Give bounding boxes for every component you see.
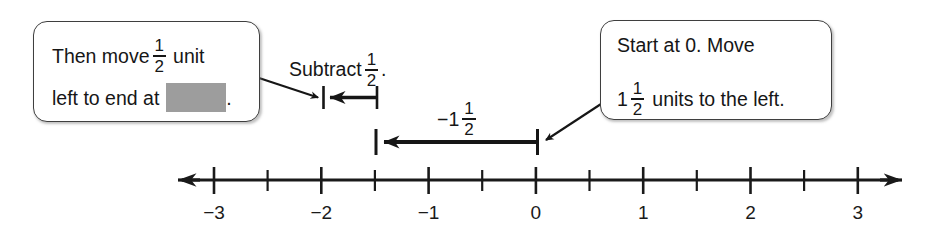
fraction-denominator: 2 [153, 57, 166, 75]
fraction-numerator: 1 [462, 100, 475, 118]
subtract-annotation-period: . [381, 58, 386, 80]
main-jump-label: −112 [437, 101, 479, 139]
right-callout-line1-text: Start at 0. Move [617, 36, 755, 56]
answer-blank[interactable] [166, 83, 226, 112]
fraction-numerator: 1 [365, 51, 378, 69]
number-line-figure: −3 −2 −1 0 1 2 3 Subtract12. −112 Then m… [0, 0, 929, 234]
fraction-numerator: 1 [631, 80, 644, 98]
right-callout-line-1: Start at 0. Move [617, 36, 755, 56]
main-jump-fraction: 12 [462, 100, 475, 138]
subtract-annotation-label: Subtract12. [289, 52, 387, 90]
tick-label-neg2: −2 [310, 203, 332, 222]
right-callout-line-2: 112 units to the left. [617, 81, 785, 119]
right-callout-line2-after: units to the left. [647, 90, 784, 110]
main-jump-whole: 1 [448, 110, 459, 130]
left-callout-line1-after: unit [169, 47, 204, 67]
right-callout-mixed-number: 112 [617, 81, 647, 119]
left-callout-fraction: 12 [153, 37, 166, 75]
tick-label-pos2: 2 [745, 203, 756, 222]
tick-label-zero: 0 [531, 203, 542, 222]
left-callout-line-1: Then move 12 unit [52, 38, 204, 76]
left-callout-line2-after: . [226, 89, 231, 109]
left-callout-line-2: left to end at . [52, 84, 232, 113]
right-callout-whole: 1 [617, 90, 628, 110]
fraction-denominator: 2 [631, 100, 644, 118]
fraction-denominator: 2 [365, 71, 378, 89]
left-callout-line2-before: left to end at [52, 89, 159, 109]
right-callout-fraction: 12 [631, 80, 644, 118]
fraction-denominator: 2 [462, 120, 475, 138]
tick-label-neg3: −3 [203, 203, 225, 222]
main-jump-sign: − [437, 110, 448, 130]
left-callout-box: Then move 12 unit left to end at . [33, 21, 260, 122]
right-callout-leader [546, 104, 601, 140]
tick-label-pos3: 3 [853, 203, 864, 222]
subtract-annotation-fraction: 12 [365, 51, 378, 89]
tick-label-pos1: 1 [638, 203, 649, 222]
fraction-numerator: 1 [153, 37, 166, 55]
main-jump-mixed-number: −112 [437, 101, 479, 139]
right-callout-box: Start at 0. Move 112 units to the left. [600, 20, 832, 120]
subtract-annotation-text: Subtract [289, 58, 362, 80]
left-callout-line1-before: Then move [52, 47, 150, 67]
tick-label-neg1: −1 [418, 203, 440, 222]
